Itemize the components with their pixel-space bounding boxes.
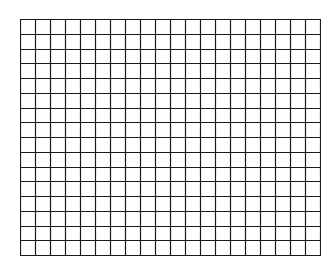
grid-paper: [20, 19, 321, 256]
grid-lines: [20, 19, 321, 256]
